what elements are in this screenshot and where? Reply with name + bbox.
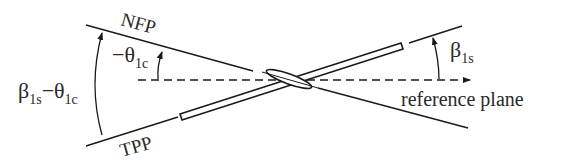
arc-arrow-neg-theta [158, 52, 162, 79]
bmt-op: −θ [42, 78, 65, 103]
neg-theta-main: −θ [112, 42, 135, 67]
bmt-sub2: 1c [65, 92, 78, 107]
bmt-sub1: 1s [29, 92, 41, 107]
flapping-planes-diagram: NFP TPP reference plane β1s −θ1c β1s−θ1c [0, 0, 584, 161]
beta-minus-theta-label: β1s−θ1c [18, 78, 78, 107]
neg-theta-sub: 1c [135, 56, 148, 71]
neg-theta-1c-label: −θ1c [112, 42, 148, 71]
beta-1s-sub: 1s [461, 51, 473, 66]
reference-plane-label: reference plane [401, 88, 524, 111]
beta-1s-label: β1s [450, 37, 474, 66]
beta-1s-main: β [450, 37, 461, 62]
arc-arrow-beta-minus-theta [95, 33, 102, 135]
arc-arrow-beta [433, 38, 439, 79]
nfp-label: NFP [119, 9, 158, 38]
bmt-beta: β [18, 78, 29, 103]
tpp-label: TPP [117, 132, 154, 161]
